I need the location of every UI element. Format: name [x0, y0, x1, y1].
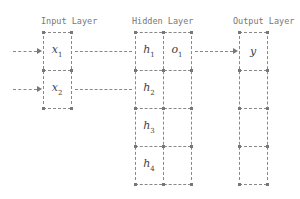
node-x1: x1	[52, 43, 63, 58]
grid-node	[42, 107, 45, 110]
node-o1: o1	[171, 43, 182, 58]
hidden-layer-title: Hidden Layer	[132, 16, 193, 26]
grid-node	[162, 107, 165, 110]
grid-line	[239, 146, 267, 147]
node-h4: h4	[143, 157, 155, 172]
grid-node	[134, 31, 137, 34]
arrowhead-icon	[37, 48, 42, 54]
grid-line	[239, 184, 267, 185]
grid-node	[190, 145, 193, 148]
node-h2: h2	[143, 81, 155, 96]
grid-node	[238, 69, 241, 72]
arrowhead-icon	[37, 86, 42, 92]
grid-node	[238, 107, 241, 110]
arrowhead-icon	[233, 48, 238, 54]
input-arrow-x1	[13, 51, 37, 52]
grid-node	[238, 31, 241, 34]
input-arrow-x2	[13, 89, 37, 90]
node-h1: h1	[143, 43, 155, 58]
grid-node	[266, 31, 269, 34]
grid-node	[266, 145, 269, 148]
grid-node	[190, 31, 193, 34]
grid-line	[43, 108, 71, 109]
grid-node	[190, 107, 193, 110]
output-layer-title: Output Layer	[233, 16, 294, 26]
grid-node	[70, 69, 73, 72]
grid-node	[266, 183, 269, 186]
grid-node	[42, 69, 45, 72]
grid-node	[266, 69, 269, 72]
grid-node	[134, 183, 137, 186]
grid-line	[239, 108, 267, 109]
connection-o1-y	[195, 51, 233, 52]
grid-line	[239, 32, 267, 33]
grid-node	[162, 183, 165, 186]
grid-node	[134, 145, 137, 148]
grid-node	[134, 69, 137, 72]
grid-line	[43, 70, 71, 71]
grid-node	[266, 107, 269, 110]
grid-node	[134, 107, 137, 110]
grid-node	[190, 69, 193, 72]
grid-node	[238, 183, 241, 186]
node-h3: h3	[143, 119, 155, 134]
node-x2: x2	[52, 81, 63, 96]
node-y: y	[250, 45, 256, 58]
grid-node	[162, 69, 165, 72]
grid-node	[70, 31, 73, 34]
grid-line	[43, 32, 71, 33]
grid-node	[70, 107, 73, 110]
grid-node	[238, 145, 241, 148]
input-layer-title: Input Layer	[41, 16, 97, 26]
grid-line	[239, 70, 267, 71]
grid-node	[162, 145, 165, 148]
connection-x1-h1	[75, 51, 132, 52]
grid-node	[42, 31, 45, 34]
connection-x2-h2	[75, 89, 132, 90]
grid-node	[162, 31, 165, 34]
grid-node	[190, 183, 193, 186]
